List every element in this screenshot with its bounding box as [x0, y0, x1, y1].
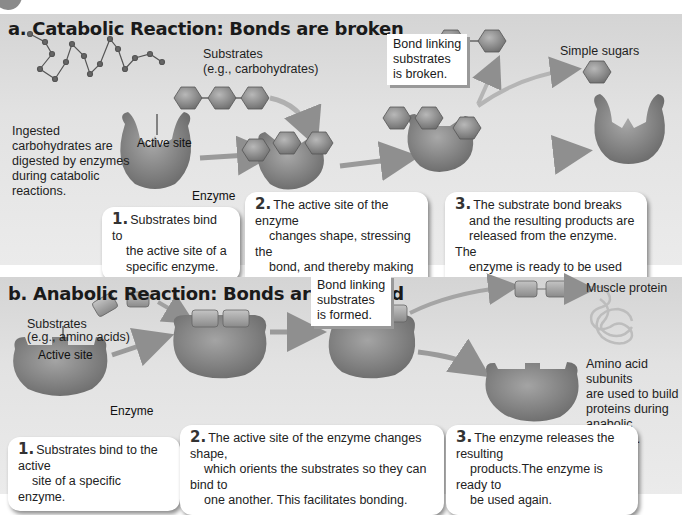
anabolic-enzyme-1 [13, 337, 107, 396]
callout-line: Bond linking [317, 278, 385, 293]
bond-broken-callout: Bond linking substrates is broken. [387, 34, 467, 85]
step-text: and the resulting products are [455, 214, 634, 228]
anabolic-step-1: 1.Substrates bind to the active site of … [8, 437, 180, 511]
catabolic-step-1: 1.Substrates bind to the active site of … [102, 207, 240, 281]
substrates-label-line: Substrates [203, 47, 318, 62]
anabolic-step-3: 3.The enzyme releases the resulting prod… [446, 425, 638, 515]
note-line: digested by enzymes [12, 154, 129, 169]
step-number: 3. [455, 195, 471, 213]
callout-line: Bond linking [393, 37, 461, 52]
bond-formed-callout: Bond linking substrates is formed. [311, 275, 391, 326]
anabolic-enzyme-2 [173, 315, 266, 378]
step-text: released from the enzyme. The [455, 229, 617, 259]
active-site-label: Active site [137, 136, 192, 151]
arrow-substrate-to-enzyme [270, 98, 312, 134]
note-line: are used to build [586, 387, 682, 402]
note-line: proteins during [586, 402, 682, 417]
enzyme-4 [594, 94, 665, 164]
step-number: 2. [190, 428, 206, 446]
step-text: The active site of the enzyme [255, 198, 388, 228]
step-text: the active site of a [112, 244, 227, 258]
note-line: during catabolic [12, 169, 129, 184]
step-text: specific enzyme. [112, 260, 218, 274]
catabolic-title: a. Catabolic Reaction: Bonds are broken [8, 18, 403, 39]
step-text: The substrate bond breaks [473, 198, 622, 212]
step-text: be used again. [456, 493, 552, 507]
step-text: The active site of the enzyme changes sh… [190, 431, 421, 461]
step-text: products.The enzyme is ready to [456, 462, 603, 492]
step-number: 3. [456, 428, 472, 446]
step-text: which orients the substrates so they can… [190, 462, 426, 492]
substrate-chain-hexagons [174, 87, 269, 109]
active-site-label-b: Active site [38, 348, 93, 363]
step-text: The enzyme releases the resulting [456, 431, 615, 461]
callout-line: is formed. [317, 308, 385, 323]
substrates-example-line: (e.g., carbohydrates) [203, 62, 318, 77]
anabolic-enzyme-4 [485, 362, 578, 422]
callout-line: substrates [393, 52, 461, 67]
step-text: changes shape, stressing the [255, 229, 411, 259]
note-line: reactions. [12, 184, 129, 199]
note-line: Amino acid subunits [586, 357, 682, 387]
muscle-protein-label: Muscle protein [586, 281, 667, 296]
substrates-label: Substrates (e.g., carbohydrates) [203, 47, 318, 77]
step-number: 2. [255, 195, 271, 213]
carbohydrate-chain-icon [28, 32, 165, 82]
anabolic-step-2: 2.The active site of the enzyme changes … [180, 425, 444, 515]
simple-sugars-label: Simple sugars [560, 44, 639, 59]
enzyme-label-b: Enzyme [110, 404, 153, 419]
section-marker-icon [0, 0, 22, 10]
step-text: site of a specific enzyme. [18, 474, 121, 504]
note-line: carbohydrates are [12, 139, 129, 154]
anabolic-panel: b. Anabolic Reaction: Bonds are created … [0, 277, 682, 494]
step-text: Substrates bind to the active [18, 443, 158, 473]
callout-line: is broken. [393, 67, 461, 82]
catabolic-panel: a. Catabolic Reaction: Bonds are broken … [0, 14, 682, 265]
step-number: 1. [18, 440, 34, 458]
step-text: one another. This facilitates bonding. [190, 493, 407, 507]
callout-line: substrates [317, 293, 385, 308]
substrates-example-line: (e.g., amino acids) [27, 330, 130, 345]
note-line: Ingested [12, 124, 129, 139]
amino-substrates-label: Substrates (e.g., amino acids) [27, 317, 130, 345]
step-number: 1. [112, 210, 128, 228]
ingested-note: Ingested carbohydrates are digested by e… [12, 124, 129, 199]
enzyme-label: Enzyme [192, 189, 235, 204]
